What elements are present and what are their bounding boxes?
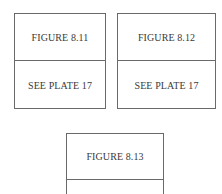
- figure-title: FIGURE 8.13: [67, 134, 163, 179]
- figure-placeholder-8-11: FIGURE 8.11 SEE PLATE 17: [14, 13, 106, 109]
- figure-placeholder-8-13: FIGURE 8.13: [66, 133, 164, 194]
- plate-reference: SEE PLATE 17: [118, 61, 215, 109]
- plate-reference: [67, 180, 163, 194]
- plate-reference: SEE PLATE 17: [15, 61, 105, 109]
- figure-title: FIGURE 8.12: [118, 14, 215, 60]
- figure-title: FIGURE 8.11: [15, 14, 105, 60]
- figure-placeholder-8-12: FIGURE 8.12 SEE PLATE 17: [117, 13, 216, 109]
